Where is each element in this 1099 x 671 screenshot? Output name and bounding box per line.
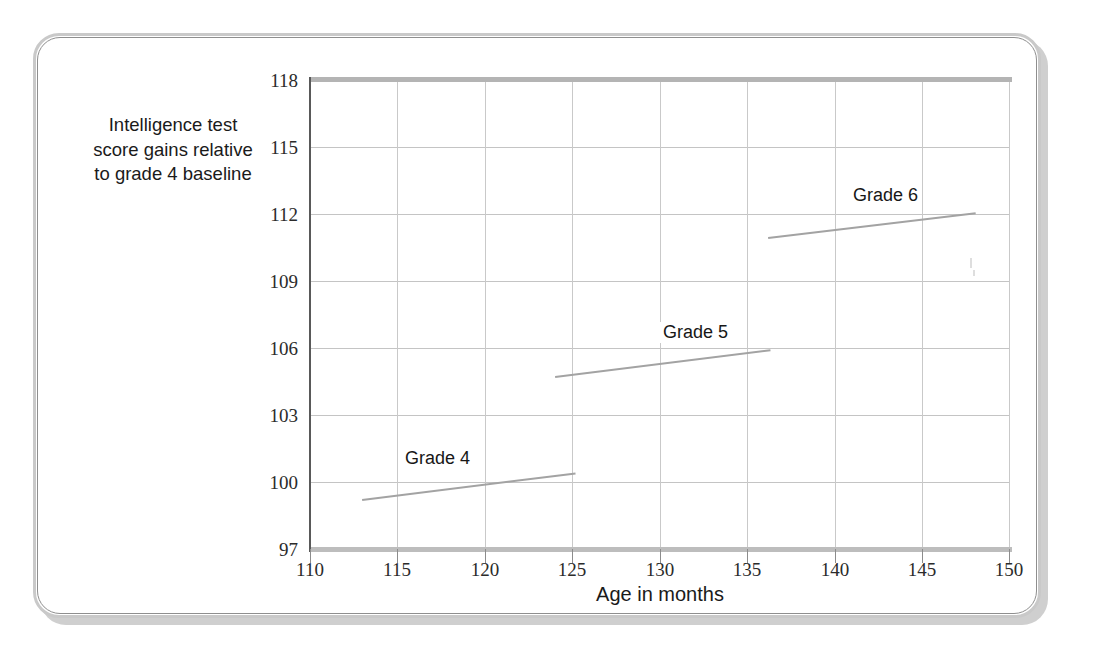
series-label-grade-4: Grade 4 (402, 448, 473, 469)
x-tick-label-140: 140 (805, 560, 865, 579)
gridline-x-130 (660, 80, 661, 549)
y-tick-label-112: 112 (252, 205, 298, 224)
gridline-x-150 (1009, 80, 1010, 549)
y-axis-title-line-2: score gains relative (84, 138, 262, 163)
x-tick-label-115: 115 (367, 560, 427, 579)
x-tick-label-125: 125 (542, 560, 602, 579)
y-tick-label-97: 97 (252, 540, 298, 559)
x-tick-label-145: 145 (892, 560, 952, 579)
axis-top-band (310, 77, 1012, 82)
x-tick-label-135: 135 (717, 560, 777, 579)
y-tick-label-106: 106 (252, 339, 298, 358)
x-tick-label-150: 150 (979, 560, 1039, 579)
gridline-x-145 (922, 80, 923, 549)
x-tick-label-110: 110 (280, 560, 340, 579)
gridline-x-135 (747, 80, 748, 549)
y-tick-label-115: 115 (252, 138, 298, 157)
figure-page: Intelligence test score gains relative t… (0, 0, 1099, 671)
x-tick-label-130: 130 (630, 560, 690, 579)
plot-area: Grade 4 Grade 5 Grade 6 (310, 80, 1010, 549)
y-axis-line (309, 77, 311, 552)
series-label-grade-6: Grade 6 (850, 185, 921, 206)
y-tick-label-109: 109 (252, 272, 298, 291)
y-tick-label-118: 118 (252, 71, 298, 90)
y-tick-label-100: 100 (252, 473, 298, 492)
gridline-x-140 (835, 80, 836, 549)
scan-artifact-speck (973, 270, 975, 276)
x-tick-label-120: 120 (455, 560, 515, 579)
line-chart: Intelligence test score gains relative t… (0, 0, 1099, 671)
gridline-x-125 (572, 80, 573, 549)
trend-line-grade-4 (362, 472, 576, 501)
trend-line-grade-5 (555, 349, 771, 378)
trend-line-grade-6 (768, 212, 976, 239)
gridline-x-115 (397, 80, 398, 549)
y-axis-title-line-1: Intelligence test (84, 113, 262, 138)
gridline-x-120 (485, 80, 486, 549)
series-label-grade-5: Grade 5 (660, 322, 731, 343)
y-axis-title-line-3: to grade 4 baseline (84, 162, 262, 187)
x-axis-title: Age in months (310, 583, 1010, 606)
y-tick-label-103: 103 (252, 406, 298, 425)
x-axis-line (310, 547, 1012, 552)
y-axis-title: Intelligence test score gains relative t… (84, 113, 262, 187)
scan-artifact-speck (970, 258, 972, 268)
